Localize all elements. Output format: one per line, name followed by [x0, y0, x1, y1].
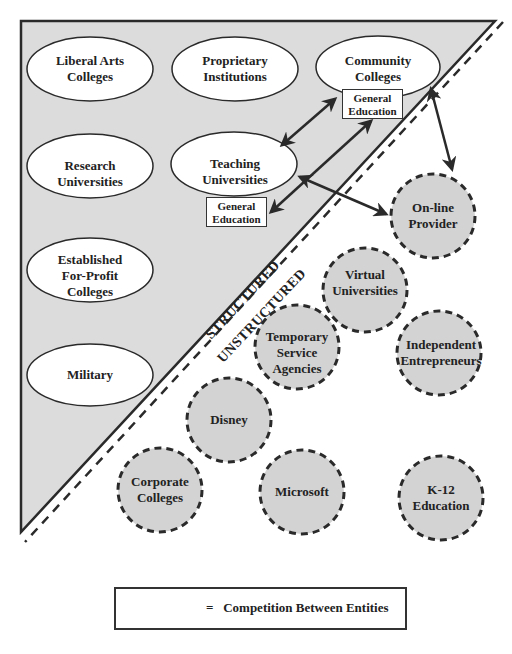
label-line: Education: [343, 105, 402, 118]
label-line: Agencies: [266, 361, 328, 377]
label-independent-entrepreneurs: Independent Entrepreneurs: [400, 337, 481, 369]
label-line: Education: [207, 213, 266, 226]
label-line: Disney: [210, 412, 248, 428]
label-line: Microsoft: [275, 484, 329, 500]
label-line: General: [343, 92, 402, 105]
label-online-provider: On-line Provider: [409, 200, 458, 232]
label-line: Military: [67, 367, 113, 383]
label-line: Teaching: [202, 156, 268, 172]
label-temporary-service: Temporary Service Agencies: [266, 329, 328, 377]
label-proprietary: Proprietary Institutions: [202, 53, 267, 85]
label-teaching-universities: Teaching Universities: [202, 156, 268, 188]
label-line: K-12: [412, 482, 469, 498]
label-line: Liberal Arts: [56, 53, 124, 69]
label-line: General: [207, 200, 266, 213]
label-line: Universities: [332, 283, 398, 299]
label-research-universities: Research Universities: [57, 158, 123, 190]
label-line: Established: [58, 252, 122, 268]
general-education-box-cc: General Education: [342, 89, 403, 119]
label-line: Universities: [57, 174, 123, 190]
label-line: Corporate: [131, 474, 189, 490]
label-line: Universities: [202, 172, 268, 188]
legend-equals: =: [206, 600, 213, 615]
label-liberal-arts: Liberal Arts Colleges: [56, 53, 124, 85]
label-line: Independent: [400, 337, 481, 353]
legend-text: Competition Between Entities: [223, 600, 388, 615]
label-line: For-Profit: [58, 268, 122, 284]
label-line: Colleges: [131, 490, 189, 506]
general-education-box-teaching: General Education: [206, 197, 267, 227]
label-for-profit: Established For-Profit Colleges: [58, 252, 122, 300]
label-line: Community: [345, 53, 411, 69]
label-line: Research: [57, 158, 123, 174]
label-corporate-colleges: Corporate Colleges: [131, 474, 189, 506]
label-line: Institutions: [202, 69, 267, 85]
label-virtual-universities: Virtual Universities: [332, 267, 398, 299]
label-microsoft: Microsoft: [275, 484, 329, 500]
legend-box: = Competition Between Entities: [114, 587, 407, 630]
label-k12-education: K-12 Education: [412, 482, 469, 514]
label-line: Entrepreneurs: [400, 353, 481, 369]
label-line: Service: [266, 345, 328, 361]
label-disney: Disney: [210, 412, 248, 428]
arrow-cc-online: [431, 89, 452, 169]
label-line: On-line: [409, 200, 458, 216]
label-line: Colleges: [58, 284, 122, 300]
legend-label: = Competition Between Entities: [206, 600, 389, 616]
label-line: Virtual: [332, 267, 398, 283]
label-line: Education: [412, 498, 469, 514]
label-line: Proprietary: [202, 53, 267, 69]
label-line: Temporary: [266, 329, 328, 345]
label-line: Provider: [409, 216, 458, 232]
label-community-colleges: Community Colleges: [345, 53, 411, 85]
label-line: Colleges: [345, 69, 411, 85]
label-military: Military: [67, 367, 113, 383]
label-line: Colleges: [56, 69, 124, 85]
